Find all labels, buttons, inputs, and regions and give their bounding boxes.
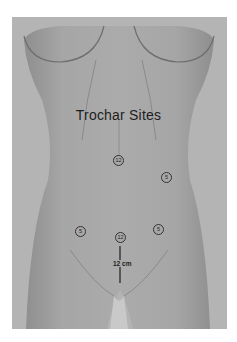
trochar-marker-upper-midline: 12 [113, 155, 124, 166]
trochar-marker-right-upper: 5 [161, 172, 172, 183]
trochar-marker-lower-midline: 12 [115, 232, 126, 243]
figure-title: Trochar Sites [0, 107, 237, 123]
measurement-label: 12 cm [112, 260, 132, 267]
torso-illustration [0, 0, 237, 342]
trochar-marker-right-lower: 5 [153, 224, 164, 235]
trochar-marker-left-lower: 5 [75, 226, 86, 237]
